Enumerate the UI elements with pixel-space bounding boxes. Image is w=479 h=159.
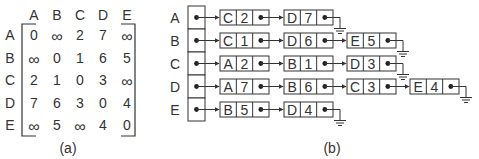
vertex-label: C	[170, 56, 180, 72]
list-node: B6	[284, 79, 346, 95]
node-weight: 2	[241, 10, 249, 26]
list-row-c: CA2B1D3	[170, 52, 409, 80]
matrix-cell: 3	[76, 95, 84, 111]
node-vertex: C	[223, 33, 233, 49]
row-header: C	[5, 72, 15, 88]
node-weight: 6	[305, 79, 313, 95]
node-weight: 5	[368, 33, 376, 49]
matrix-cell: ∞	[28, 118, 39, 135]
node-weight: 4	[305, 102, 313, 118]
node-vertex: E	[413, 79, 422, 95]
node-vertex: D	[350, 56, 360, 72]
node-vertex: B	[287, 79, 296, 95]
node-weight: 1	[241, 33, 249, 49]
list-row-b: BC1D6E5	[170, 29, 409, 57]
vertex-label: E	[170, 102, 179, 118]
caption-b: (b)	[323, 140, 340, 156]
node-weight: 3	[368, 56, 376, 72]
column-header: D	[98, 7, 108, 23]
matrix-cell: 3	[99, 72, 107, 88]
node-weight: 7	[305, 10, 313, 26]
node-vertex: E	[350, 33, 359, 49]
matrix-cell: 0	[76, 72, 84, 88]
matrix-cell: 0	[30, 27, 38, 43]
list-node: D6	[284, 33, 346, 49]
node-vertex: B	[287, 56, 296, 72]
list-row-e: EB5D4	[170, 98, 346, 126]
vertex-label: B	[170, 33, 179, 49]
matrix-cell: 5	[123, 50, 131, 66]
matrix-cell: ∞	[51, 28, 62, 45]
matrix-cell: 5	[53, 117, 61, 133]
graph-representation-diagram: ABCDEABCDE0∞27∞∞01652103∞76304∞5∞40(a) A…	[0, 0, 479, 159]
list-node: C2	[220, 10, 283, 26]
node-vertex: D	[287, 10, 297, 26]
column-header: C	[75, 7, 85, 23]
list-node: D4	[284, 102, 346, 126]
row-header: B	[5, 50, 14, 66]
row-header: D	[5, 95, 15, 111]
list-node: E5	[347, 33, 409, 57]
list-node: D3	[347, 56, 409, 80]
matrix-cell: 0	[53, 50, 61, 66]
node-vertex: D	[287, 102, 297, 118]
matrix-cell: 2	[76, 27, 84, 43]
node-vertex: C	[223, 10, 233, 26]
matrix-cell: ∞	[121, 28, 132, 45]
caption-a: (a)	[59, 140, 76, 156]
matrix-cell: 0	[123, 117, 131, 133]
adjacency-matrix: ABCDEABCDE0∞27∞∞01652103∞76304∞5∞40(a)	[5, 7, 135, 156]
vertex-label: A	[170, 10, 180, 26]
node-weight: 4	[431, 79, 439, 95]
vertex-label: D	[170, 79, 180, 95]
node-vertex: B	[223, 102, 232, 118]
matrix-cell: ∞	[121, 73, 132, 90]
list-node: C1	[220, 33, 283, 49]
column-header: A	[29, 7, 39, 23]
matrix-cell: 4	[123, 95, 131, 111]
node-vertex: C	[350, 79, 360, 95]
matrix-cell: 0	[99, 95, 107, 111]
matrix-cell: 4	[99, 117, 107, 133]
matrix-cell: 1	[53, 72, 61, 88]
node-vertex: A	[223, 79, 233, 95]
row-header: E	[5, 117, 14, 133]
row-header: A	[5, 27, 15, 43]
matrix-cell: ∞	[28, 51, 39, 68]
list-node: A2	[220, 56, 283, 72]
matrix-cell: 2	[30, 72, 38, 88]
list-node: B1	[284, 56, 346, 72]
adjacency-list: AC2D7BC1D6E5CA2B1D3DA7B6C3E4EB5D4(b)	[170, 6, 472, 156]
node-vertex: A	[223, 56, 233, 72]
node-weight: 5	[241, 102, 249, 118]
node-weight: 6	[305, 33, 313, 49]
matrix-cell: 7	[99, 27, 107, 43]
matrix-cell: ∞	[74, 118, 85, 135]
matrix-cell: 6	[99, 50, 107, 66]
node-weight: 2	[241, 56, 249, 72]
matrix-cell: 6	[53, 95, 61, 111]
list-node: E4	[410, 79, 472, 103]
list-node: B5	[220, 102, 283, 118]
list-node: A7	[220, 79, 283, 95]
matrix-cell: 7	[30, 95, 38, 111]
node-vertex: D	[287, 33, 297, 49]
list-node: C3	[347, 79, 409, 95]
list-node: D7	[284, 10, 346, 34]
list-row-d: DA7B6C3E4	[170, 75, 472, 103]
node-weight: 1	[305, 56, 313, 72]
column-header: B	[52, 7, 61, 23]
node-weight: 3	[368, 79, 376, 95]
column-header: E	[122, 7, 131, 23]
node-weight: 7	[241, 79, 249, 95]
matrix-cell: 1	[76, 50, 84, 66]
